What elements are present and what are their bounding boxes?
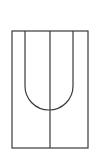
u-shape (25, 31, 73, 110)
diagram-canvas (0, 0, 101, 162)
